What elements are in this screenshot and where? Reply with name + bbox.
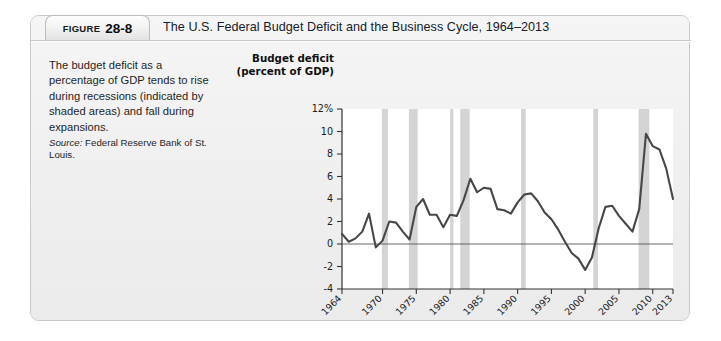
figure-container: FIGURE 28-8 The U.S. Federal Budget Defi… (30, 15, 690, 321)
x-tick-label: 2013 (650, 293, 675, 316)
caption-body-text: The budget deficit as a percentage of GD… (49, 58, 211, 135)
y-tick-label: 8 (327, 148, 333, 159)
x-tick-label: 1964 (319, 293, 344, 316)
figure-number-tab: FIGURE 28-8 (45, 15, 150, 40)
x-tick-label: 2010 (630, 293, 655, 316)
x-tick-label: 1995 (528, 293, 553, 316)
x-tick-label: 1975 (393, 293, 418, 316)
y-tick-label: 6 (327, 171, 333, 182)
x-tick-label: 1970 (359, 293, 384, 316)
x-tick-label: 2005 (596, 293, 621, 316)
y-tick-label: -4 (323, 283, 333, 294)
source-label: Source: (49, 137, 82, 148)
header-divider-highlight (31, 41, 691, 42)
figure-screenshot: FIGURE 28-8 The U.S. Federal Budget Defi… (0, 0, 721, 341)
y-axis-ticks: 12%1086420-2-4 (312, 103, 342, 294)
figure-caption: The budget deficit as a percentage of GD… (49, 58, 211, 162)
chart-area: 12%1086420-2-4 1964197019751980198519901… (216, 46, 686, 316)
y-tick-label: 10 (321, 126, 333, 137)
caption-source: Source: Federal Reserve Bank of St. Loui… (49, 137, 211, 162)
y-tick-label: 0 (327, 238, 333, 249)
x-tick-label: 1980 (427, 293, 452, 316)
y-axis-title-line2: (percent of GDP) (237, 65, 334, 77)
x-tick-label: 2000 (562, 293, 587, 316)
recession-band (593, 109, 598, 289)
budget-deficit-line-chart: 12%1086420-2-4 1964197019751980198519901… (216, 46, 686, 316)
figure-label-word: FIGURE (63, 23, 101, 34)
x-tick-label: 1985 (461, 293, 486, 316)
figure-title: The U.S. Federal Budget Deficit and the … (163, 20, 549, 34)
recession-band (450, 109, 453, 289)
recession-band (409, 109, 418, 289)
chart-plot-background (342, 109, 673, 289)
recession-band (382, 109, 388, 289)
figure-number: 28-8 (105, 21, 132, 36)
x-axis-ticks: 1964197019751980198519901995200020052010… (319, 289, 675, 316)
y-tick-label: 12% (312, 103, 333, 114)
y-axis-title-line1: Budget deficit (252, 52, 334, 64)
x-tick-label: 1990 (495, 293, 520, 316)
y-tick-label: 2 (327, 216, 333, 227)
y-tick-label: -2 (323, 261, 333, 272)
y-tick-label: 4 (327, 193, 333, 204)
